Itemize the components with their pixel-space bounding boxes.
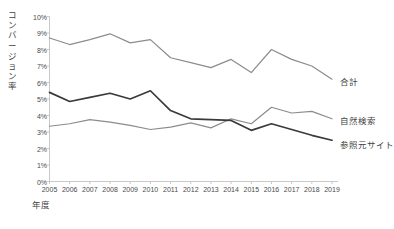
- x-tick-2006: 2006: [62, 186, 78, 193]
- x-tick-2015: 2015: [243, 186, 259, 193]
- x-tick-2013: 2013: [203, 186, 219, 193]
- x-tick-2011: 2011: [163, 186, 178, 193]
- x-tick-2008: 2008: [102, 186, 118, 193]
- x-tick-2009: 2009: [122, 186, 138, 193]
- series-label-2: 参照元サイト: [340, 138, 394, 150]
- series-label-1: 自然検索: [340, 114, 376, 126]
- x-tick-2016: 2016: [264, 186, 280, 193]
- x-tick-2012: 2012: [183, 186, 199, 193]
- x-tick-2019: 2019: [324, 186, 340, 193]
- x-tick-2005: 2005: [42, 186, 58, 193]
- x-axis-title: 年度: [32, 198, 50, 210]
- x-tick-2014: 2014: [223, 186, 239, 193]
- x-tick-2010: 2010: [143, 186, 159, 193]
- series-label-0: 合計: [340, 75, 358, 87]
- x-tick-2018: 2018: [304, 186, 320, 193]
- x-tick-2017: 2017: [284, 186, 300, 193]
- x-tick-2007: 2007: [82, 186, 98, 193]
